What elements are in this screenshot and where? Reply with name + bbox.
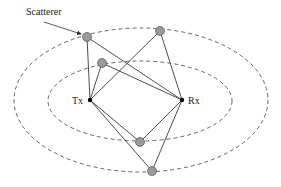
rx-label: Rx	[188, 95, 200, 106]
scatterers	[83, 27, 165, 176]
scatterer-arrow	[44, 22, 81, 34]
scatterer-label: Scatterer	[26, 6, 62, 17]
scatterer-5	[148, 167, 157, 176]
scatterer-1	[83, 33, 92, 42]
scatterer-3	[98, 59, 107, 68]
tx-node	[88, 98, 92, 102]
scatterer-4	[136, 138, 145, 147]
rx-node	[180, 98, 184, 102]
propagation-paths	[87, 31, 182, 171]
scatterer-2	[156, 27, 165, 36]
scattering-diagram: Scatterer Tx Rx	[0, 0, 281, 187]
tx-label: Tx	[72, 95, 83, 106]
